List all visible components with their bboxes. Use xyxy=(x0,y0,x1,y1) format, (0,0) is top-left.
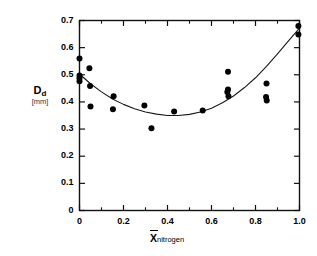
x-axis-label: Xnitrogen xyxy=(150,228,260,246)
data-point xyxy=(111,93,117,99)
data-point xyxy=(77,56,83,62)
x-axis-label-subscript: nitrogen xyxy=(157,235,184,244)
x-axis-tick-label: 0.6 xyxy=(198,216,226,226)
plot-frame xyxy=(80,21,300,211)
data-point xyxy=(225,69,231,75)
y-axis-tick-label: 0.1 xyxy=(34,177,74,187)
data-point xyxy=(200,108,206,114)
x-axis-tick-label: 0 xyxy=(66,216,94,226)
y-axis-tick-label: 0 xyxy=(34,205,74,215)
data-point xyxy=(295,23,301,29)
data-point xyxy=(148,125,154,131)
x-axis-label-main: X xyxy=(150,232,157,244)
data-point xyxy=(171,108,177,114)
x-axis-tick-label: 0.2 xyxy=(110,216,138,226)
data-point xyxy=(88,104,94,110)
y-axis-tick-label: 0.3 xyxy=(34,123,74,133)
data-point xyxy=(264,98,270,104)
data-point xyxy=(87,83,93,89)
x-axis-label-overbar xyxy=(150,230,158,231)
data-point xyxy=(141,102,147,108)
data-point xyxy=(225,93,231,99)
y-axis-label-main: Dd xyxy=(14,85,66,97)
y-axis-tick-label: 0.6 xyxy=(34,42,74,52)
y-axis-tick-label: 0.2 xyxy=(34,150,74,160)
x-axis-tick-label: 0.4 xyxy=(154,216,182,226)
data-point xyxy=(110,106,116,112)
data-point xyxy=(86,65,92,71)
y-axis-label-symbol: D xyxy=(34,84,42,96)
scatter-plot-figure: Dd [mm] Xnitrogen 00.20.40.60.81.000.10.… xyxy=(0,0,317,256)
y-axis-tick-label: 0.4 xyxy=(34,96,74,106)
y-axis-tick-label: 0.7 xyxy=(34,15,74,25)
data-point xyxy=(295,32,301,38)
data-point xyxy=(77,78,83,84)
y-axis-tick-label: 0.5 xyxy=(34,69,74,79)
x-axis-tick-label: 1.0 xyxy=(286,216,314,226)
data-point xyxy=(264,80,270,86)
x-axis-tick-label: 0.8 xyxy=(242,216,270,226)
